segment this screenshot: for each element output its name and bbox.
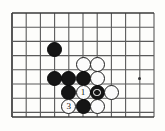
black-stone[interactable] [47,71,62,86]
black-stone[interactable] [47,42,62,57]
black-stone[interactable] [76,71,91,86]
white-stone[interactable]: 1 [76,85,91,100]
white-stone[interactable] [90,57,105,72]
white-stone[interactable] [90,99,105,114]
black-stone[interactable] [76,99,91,114]
white-stone[interactable] [104,85,119,100]
move-number-label: 3 [62,100,75,113]
go-diagram-root: 13 [0,0,165,131]
white-stone[interactable]: 3 [61,99,76,114]
circle-marker-icon [93,89,101,97]
white-stone[interactable] [90,71,105,86]
go-board[interactable]: 13 [0,0,165,131]
move-number-label: 1 [77,86,90,99]
white-stone[interactable] [76,57,91,72]
black-stone[interactable] [90,85,105,100]
